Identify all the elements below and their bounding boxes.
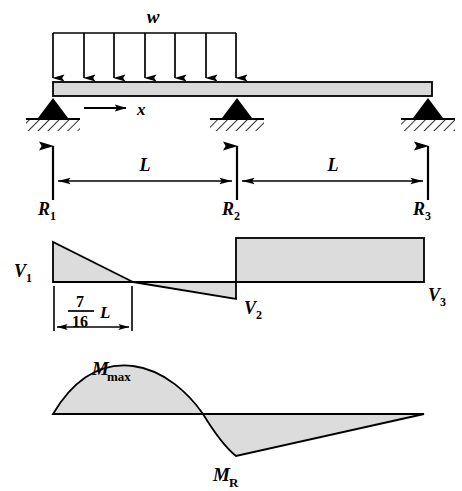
svg-text:3: 3 (440, 295, 446, 309)
load-diagram-group: w x R 1 R (26, 6, 455, 223)
svg-text:2: 2 (256, 308, 262, 322)
dimension-span-right: L (242, 155, 423, 181)
moment-diagram-group: M max M R (53, 358, 424, 490)
svg-text:2: 2 (234, 209, 240, 223)
figure-root: w x R 1 R (0, 0, 462, 491)
beam-diagram-svg: w x R 1 R (0, 0, 462, 491)
svg-text:1: 1 (26, 271, 32, 285)
reaction-label-1: R 1 (37, 199, 56, 223)
svg-text:1: 1 (50, 209, 56, 223)
ground-hatch (26, 119, 80, 131)
shear-right-span-area (236, 238, 424, 282)
shear-zero-crossing-dimension: 7 16 L (54, 286, 132, 331)
reaction-label-3: R 3 (412, 199, 431, 223)
dimension-span-left: L (58, 155, 232, 181)
ground-hatch (210, 119, 264, 131)
svg-text:R: R (37, 199, 50, 219)
fraction-denominator: 16 (72, 313, 88, 330)
support-left (26, 98, 80, 131)
svg-text:R: R (221, 199, 234, 219)
support-right (401, 98, 455, 131)
fraction-length-symbol: L (99, 303, 110, 322)
reaction-label-2: R 2 (221, 199, 240, 223)
support-middle (210, 98, 264, 131)
support-triangle (38, 98, 68, 118)
svg-text:3: 3 (425, 209, 431, 223)
support-triangle (222, 98, 252, 118)
fraction-numerator: 7 (76, 293, 84, 310)
support-triangle (413, 98, 443, 118)
distributed-load-label: w (147, 6, 160, 27)
dimension-label: L (139, 155, 151, 175)
shear-diagram-group: V 1 V 2 V 3 7 16 L (14, 238, 446, 331)
shear-negative-area (133, 282, 236, 299)
ground-hatch (401, 119, 455, 131)
svg-text:R: R (229, 475, 239, 490)
shear-positive-area (53, 242, 133, 282)
moment-negative-area (203, 414, 424, 456)
shear-label-v1: V 1 (14, 261, 32, 285)
x-axis-label: x (136, 100, 146, 119)
moment-label-min: M R (212, 464, 239, 490)
svg-text:R: R (412, 199, 425, 219)
shear-label-v2: V 2 (244, 298, 262, 322)
svg-text:max: max (107, 369, 131, 384)
beam-body (53, 82, 432, 96)
dimension-label: L (327, 155, 339, 175)
distributed-load-arrows (53, 33, 236, 78)
shear-label-v3: V 3 (428, 285, 446, 309)
